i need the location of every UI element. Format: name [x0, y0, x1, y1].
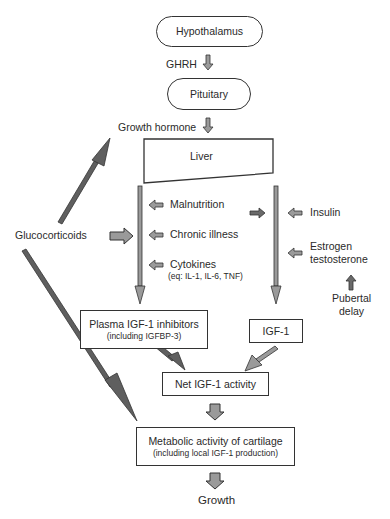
node-pituitary: Pituitary: [167, 78, 251, 110]
liver-label: Liver: [190, 150, 213, 163]
pubertal-label: Pubertal: [332, 292, 371, 305]
node-net-igf1: Net IGF-1 activity: [162, 372, 269, 396]
arrow-net-to-metabolic: [206, 404, 224, 420]
arrow-malnutrition-to-igf1: [250, 208, 265, 218]
pituitary-label: Pituitary: [190, 88, 228, 101]
vertical-arrow-left: [135, 186, 145, 304]
plasma-inhibitors-sublabel: (including IGFBP-3): [107, 331, 182, 342]
arrow-chronic-illness: [149, 230, 163, 240]
arrow-malnutrition: [149, 200, 163, 210]
insulin-label: Insulin: [310, 206, 340, 219]
node-plasma-inhibitors: Plasma IGF-1 inhibitors (including IGFBP…: [80, 310, 208, 349]
cytokines-label: Cytokines: [170, 258, 216, 271]
metabolic-label: Metabolic activity of cartilage: [148, 435, 282, 448]
small-down-arrow-ghrh: [203, 55, 213, 70]
estrogen-label: Estrogen: [310, 240, 352, 253]
node-igf1: IGF-1: [249, 319, 303, 343]
arrow-insulin: [288, 208, 302, 218]
arrow-cytokines: [149, 260, 163, 270]
growth-label: Growth: [198, 494, 235, 507]
arrow-igf1-to-net: [245, 346, 278, 371]
chronic-illness-label: Chronic illness: [170, 228, 238, 241]
glucocorticoids-label: Glucocorticoids: [15, 229, 87, 242]
testosterone-label: testosterone: [310, 253, 368, 266]
arrow-pubertal-up: [346, 275, 356, 290]
metabolic-sublabel: (including local IGF-1 production): [153, 448, 278, 459]
vertical-arrow-right: [271, 186, 281, 304]
igf1-label: IGF-1: [263, 325, 290, 338]
arrow-estrogen: [288, 248, 302, 258]
ghrh-label: GHRH: [166, 58, 197, 71]
node-metabolic: Metabolic activity of cartilage (includi…: [136, 427, 295, 466]
plasma-inhibitors-label: Plasma IGF-1 inhibitors: [89, 318, 199, 331]
growth-hormone-label: Growth hormone: [118, 121, 196, 134]
hypothalamus-label: Hypothalamus: [176, 25, 243, 38]
cytokines-sublabel: (eq: IL-1, IL-6, TNF): [168, 271, 243, 282]
arrow-glucocorticoids-right: [110, 228, 133, 244]
delay-label: delay: [339, 305, 364, 318]
net-igf1-label: Net IGF-1 activity: [175, 378, 256, 391]
node-hypothalamus: Hypothalamus: [156, 16, 263, 47]
small-down-arrow-gh: [203, 118, 213, 133]
arrow-metabolic-to-growth: [206, 473, 224, 489]
arrow-glucocorticoids-up: [58, 138, 110, 224]
malnutrition-label: Malnutrition: [170, 198, 224, 211]
